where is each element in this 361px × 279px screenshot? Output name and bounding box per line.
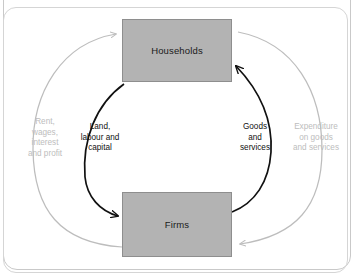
diagram-canvas: Households Firms Rent, wages, interest a…	[0, 0, 361, 279]
flow-label-factors: Land, labour and capital	[68, 122, 132, 154]
flow-label-rent-wages: Rent, wages, interest and profit	[14, 117, 76, 159]
flow-label-expenditure: Expenditure on goods and services	[278, 122, 354, 154]
node-households[interactable]: Households	[122, 19, 232, 82]
node-firms[interactable]: Firms	[122, 192, 232, 257]
node-households-label: Households	[151, 45, 203, 56]
node-firms-label: Firms	[165, 219, 190, 230]
flow-label-goods-services: Goods and services	[229, 122, 281, 154]
